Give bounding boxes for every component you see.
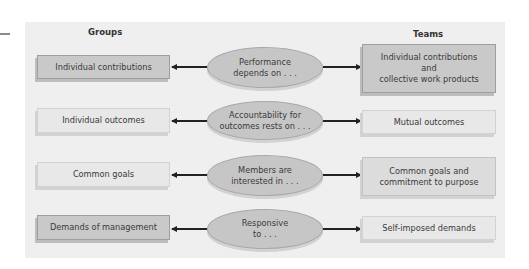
criterion-line: depends on . . . xyxy=(233,68,297,79)
arrow-to-group xyxy=(172,228,208,230)
group-box-responsive: Demands of management xyxy=(37,215,170,240)
groups-header: Groups xyxy=(88,27,122,37)
criterion-line: outcomes rests on . . . xyxy=(219,121,310,132)
group-box-performance: Individual contributions xyxy=(37,55,170,79)
team-line: Individual contributions xyxy=(379,52,479,63)
group-label: Individual contributions xyxy=(55,62,151,73)
criterion-line: to . . . xyxy=(242,229,288,240)
arrow-to-team xyxy=(323,66,361,68)
criterion-ellipse-accountability: Accountability foroutcomes rests on . . … xyxy=(207,101,323,140)
criterion-ellipse-interest: Members areinterested in . . . xyxy=(207,155,323,196)
criterion-ellipse-performance: Performancedepends on . . . xyxy=(207,47,323,88)
margin-dash xyxy=(0,33,10,35)
team-box-performance: Individual contributionsandcollective wo… xyxy=(362,44,496,93)
teams-header: Teams xyxy=(413,29,443,39)
criterion-line: interested in . . . xyxy=(231,176,298,187)
arrow-to-group xyxy=(172,174,208,176)
group-label: Common goals xyxy=(73,169,134,180)
arrow-to-team xyxy=(323,228,361,230)
team-line: Common goals and xyxy=(379,166,478,177)
team-label: Mutual outcomes xyxy=(394,117,465,128)
criterion-line: Responsive xyxy=(242,218,288,229)
group-box-accountability: Individual outcomes xyxy=(37,108,170,133)
team-line: and xyxy=(379,63,479,74)
team-label: Self-imposed demands xyxy=(382,223,475,234)
arrow-to-group xyxy=(172,120,208,122)
team-line: collective work products xyxy=(379,74,479,85)
criterion-line: Accountability for xyxy=(219,110,310,121)
arrow-to-group xyxy=(172,66,208,68)
criterion-ellipse-responsive: Responsiveto . . . xyxy=(207,209,323,249)
team-box-interest: Common goals andcommitment to purpose xyxy=(362,157,496,196)
group-box-interest: Common goals xyxy=(37,162,170,187)
team-box-accountability: Mutual outcomes xyxy=(362,110,496,134)
group-label: Demands of management xyxy=(50,222,157,233)
criterion-line: Members are xyxy=(231,165,298,176)
team-line: commitment to purpose xyxy=(379,177,478,188)
arrow-to-team xyxy=(323,120,361,122)
arrow-to-team xyxy=(323,174,361,176)
group-label: Individual outcomes xyxy=(62,115,145,126)
criterion-line: Performance xyxy=(233,57,297,68)
team-box-responsive: Self-imposed demands xyxy=(362,216,496,240)
